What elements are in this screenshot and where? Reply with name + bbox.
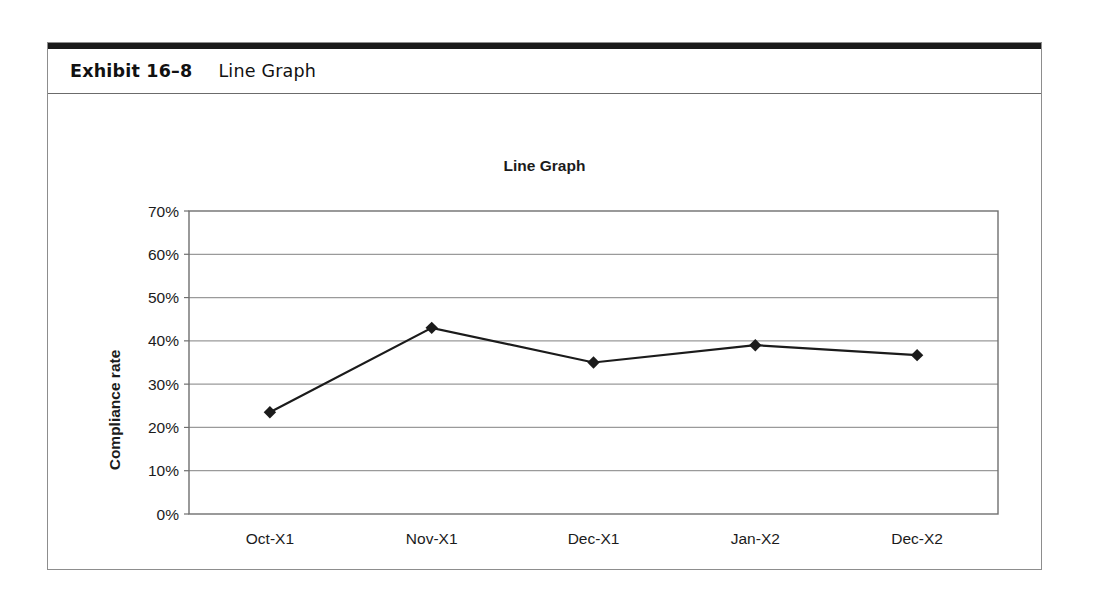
x-axis-tick-labels: Oct-X1Nov-X1Dec-X1Jan-X2Dec-X2 <box>246 530 943 547</box>
y-tick-label: 10% <box>148 462 179 479</box>
exhibit-header: Exhibit 16–8 Line Graph <box>48 49 1041 94</box>
y-tick-label: 40% <box>148 332 179 349</box>
data-point-marker <box>587 356 599 368</box>
y-axis-title: Compliance rate <box>106 349 123 470</box>
x-tick-label: Dec-X2 <box>891 530 943 547</box>
chart-svg: Compliance rate 0%10%20%30%40%50%60%70% … <box>48 95 1043 571</box>
y-tick-label: 30% <box>148 376 179 393</box>
exhibit-number: Exhibit 16–8 <box>70 61 192 81</box>
y-tick-label: 60% <box>148 246 179 263</box>
data-point-marker <box>426 322 438 334</box>
y-tick-label: 20% <box>148 419 179 436</box>
data-series-markers <box>264 322 924 419</box>
exhibit-card: Exhibit 16–8 Line Graph Line Graph Compl… <box>47 42 1042 570</box>
x-tick-label: Dec-X1 <box>568 530 620 547</box>
x-tick-label: Nov-X1 <box>406 530 458 547</box>
data-point-marker <box>911 349 923 361</box>
x-tick-label: Oct-X1 <box>246 530 294 547</box>
data-point-marker <box>264 406 276 418</box>
line-chart-figure: Line Graph Compliance rate 0%10%20%30%40… <box>48 95 1041 571</box>
y-tick-label: 70% <box>148 203 179 220</box>
chart-canvas: Compliance rate 0%10%20%30%40%50%60%70% … <box>48 95 1041 571</box>
exhibit-title: Line Graph <box>218 61 316 81</box>
y-tick-label: 50% <box>148 289 179 306</box>
y-tick-label: 0% <box>157 506 180 523</box>
x-tick-label: Jan-X2 <box>731 530 780 547</box>
y-axis-tick-labels: 0%10%20%30%40%50%60%70% <box>148 203 189 523</box>
